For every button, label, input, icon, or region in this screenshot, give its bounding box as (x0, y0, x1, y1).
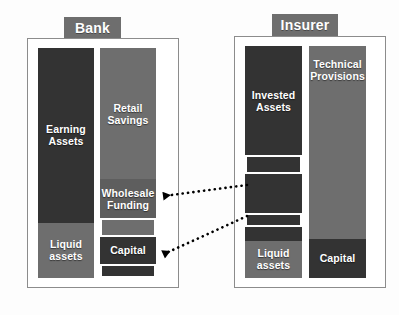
bank-segment-wholesale-funding: Wholesale Funding (100, 179, 156, 218)
insurer-liabilities-column: Technical Provisions Capital (309, 46, 366, 278)
insurer-segment-liquid-assets: Liquid assets (245, 241, 302, 278)
bank-segment-liquid-assets: Liquid assets (38, 223, 94, 278)
bank-segment-wholesale-funding-highlight (100, 218, 156, 236)
bank-segment-capital: Capital (100, 237, 156, 265)
bank-title-tab: Bank (64, 17, 121, 39)
bank-segment-retail-savings: Retail Savings (100, 48, 156, 179)
bank-segment-retail-savings-label: Retail Savings (107, 102, 150, 126)
insurer-segment-invested-assets-highlight-lower (245, 213, 302, 227)
bank-segment-earning-assets-label: Earning Assets (45, 123, 87, 147)
insurer-segment-capital-label: Capital (319, 252, 357, 264)
bank-segment-earning-assets: Earning Assets (38, 48, 94, 223)
insurer-segment-technical-provisions-label: Technical Provisions (309, 58, 366, 82)
bank-segment-wholesale-funding-label: Wholesale Funding (101, 187, 156, 211)
insurer-segment-invested-assets: Invested Assets (245, 46, 302, 155)
insurer-segment-invested-assets-mid (245, 174, 302, 213)
bank-segment-capital-highlight (100, 264, 156, 278)
bank-liabilities-column: Retail Savings Wholesale Funding Capital (100, 48, 156, 278)
insurer-segment-technical-provisions: Technical Provisions (309, 46, 366, 239)
insurer-segment-invested-assets-lower (245, 227, 302, 241)
insurer-segment-invested-assets-label: Invested Assets (251, 89, 296, 113)
diagram-canvas: Bank Earning Assets Liquid assets Retail… (0, 0, 399, 315)
bank-segment-liquid-assets-label: Liquid assets (48, 238, 83, 262)
insurer-title-label: Insurer (281, 17, 330, 33)
bank-segment-capital-label: Capital (109, 244, 147, 256)
insurer-segment-liquid-assets-label: Liquid assets (256, 247, 291, 271)
insurer-assets-column: Invested Assets Liquid assets (245, 46, 302, 278)
bank-title-label: Bank (75, 20, 110, 36)
insurer-title-tab: Insurer (272, 14, 338, 36)
insurer-segment-capital: Capital (309, 239, 366, 278)
insurer-segment-invested-assets-highlight-upper (245, 155, 302, 174)
bank-assets-column: Earning Assets Liquid assets (38, 48, 94, 278)
